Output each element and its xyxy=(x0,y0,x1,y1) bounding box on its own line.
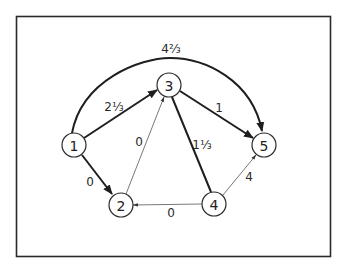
edge-4-to-2 xyxy=(133,204,202,205)
edge-label-4-2: 0 xyxy=(167,206,175,220)
edge-1-to-3 xyxy=(84,90,157,138)
edge-label-1-2: 0 xyxy=(86,175,94,189)
node-1-label: 1 xyxy=(70,138,79,154)
edge-label-3-4: 1⅓ xyxy=(192,138,212,152)
node-5: 5 xyxy=(252,133,276,157)
edge-label-2-3: 0 xyxy=(135,135,143,149)
node-5-label: 5 xyxy=(260,138,269,154)
node-2-label: 2 xyxy=(117,198,126,214)
edge-label-3-5: 1 xyxy=(215,101,223,115)
node-3-label: 3 xyxy=(165,78,174,94)
node-4-label: 4 xyxy=(210,197,219,213)
node-3: 3 xyxy=(157,73,181,97)
node-1: 1 xyxy=(62,133,86,157)
edge-2-to-3 xyxy=(126,97,164,194)
edge-label-1-5: 4⅔ xyxy=(161,42,181,56)
edge-label-4-5: 4 xyxy=(245,170,253,184)
network-diagram: 1 2 3 4 5 2⅓ 4⅔ 0 0 1 1⅓ 0 4 xyxy=(0,0,346,271)
node-2: 2 xyxy=(109,193,133,217)
node-4: 4 xyxy=(202,192,226,216)
edge-label-1-3: 2⅓ xyxy=(104,100,124,114)
